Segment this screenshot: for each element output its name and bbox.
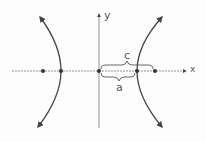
diagram-canvas xyxy=(0,0,206,142)
right-focus-point xyxy=(153,69,157,73)
hyperbola-right-branch xyxy=(137,17,162,127)
hyperbola-diagram: y x c a xyxy=(0,0,206,142)
label-c: c xyxy=(124,50,130,61)
x-axis-label: x xyxy=(190,65,195,74)
brace-a xyxy=(101,73,135,81)
brace-c xyxy=(101,61,153,69)
right-vertex-point xyxy=(135,69,139,73)
origin-point xyxy=(97,69,101,73)
left-focus-point xyxy=(41,69,45,73)
y-axis-label: y xyxy=(104,10,111,21)
left-vertex-point xyxy=(59,69,63,73)
label-a: a xyxy=(116,82,123,93)
